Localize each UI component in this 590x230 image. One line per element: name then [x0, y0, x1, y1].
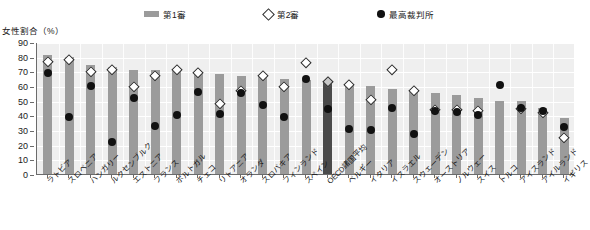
y-axis-tick-label: 70	[2, 67, 28, 77]
bar-22	[495, 101, 504, 174]
y-axis-tick-labels: 9080706050403020100	[0, 43, 34, 175]
circle-marker-9	[216, 110, 224, 118]
circle-marker-8	[194, 88, 202, 96]
circle-marker-19	[431, 107, 439, 115]
circle-marker-24	[539, 107, 547, 115]
x-axis-tick-labels: ラトビアスロベニアハンガリールクセンブルクエストニアフランスポルトガルチェコリト…	[0, 178, 578, 230]
gridline-vertical	[510, 43, 511, 174]
chart-legend: 第1審 第2審 最高裁判所	[0, 6, 578, 22]
bar-swatch-icon	[144, 11, 159, 17]
gridline-horizontal	[37, 43, 574, 44]
circle-marker-10	[237, 89, 245, 97]
y-axis-tick-mark	[30, 146, 34, 147]
diamond-marker-17	[387, 65, 398, 76]
gridline-vertical	[59, 43, 60, 174]
y-axis-tick-mark	[30, 43, 34, 44]
circle-marker-16	[367, 126, 375, 134]
circle-marker-icon	[377, 10, 385, 18]
legend-label-second-instance: 第2審	[277, 8, 300, 20]
legend-item-supreme-court: 最高裁判所	[377, 8, 434, 20]
legend-label-first-instance: 第1審	[163, 8, 186, 20]
diamond-marker-13	[301, 57, 312, 68]
gridline-vertical	[338, 43, 339, 174]
circle-marker-18	[410, 130, 418, 138]
circle-marker-7	[173, 111, 181, 119]
circle-marker-12	[280, 113, 288, 121]
y-axis-tick-mark	[30, 160, 34, 161]
y-axis-tick-label: 90	[2, 38, 28, 48]
gridline-vertical	[403, 43, 404, 174]
circle-marker-22	[496, 81, 504, 89]
gridline-vertical	[274, 43, 275, 174]
circle-marker-1	[44, 69, 52, 77]
circle-marker-11	[259, 101, 267, 109]
circle-marker-5	[130, 94, 138, 102]
y-axis-tick-mark	[30, 116, 34, 117]
circle-marker-21	[474, 111, 482, 119]
gridline-vertical	[123, 43, 124, 174]
gridline-vertical	[80, 43, 81, 174]
y-axis-tick-mark	[30, 58, 34, 59]
gridline-vertical	[166, 43, 167, 174]
gridline-vertical	[424, 43, 425, 174]
gridline-vertical	[231, 43, 232, 174]
bar-9	[215, 74, 224, 174]
legend-item-first-instance: 第1審	[144, 8, 186, 20]
gridline-vertical	[295, 43, 296, 174]
gridline-vertical	[209, 43, 210, 174]
diamond-marker-icon	[262, 8, 275, 21]
circle-marker-6	[151, 122, 159, 130]
y-axis-tick-mark	[30, 131, 34, 132]
circle-marker-17	[388, 104, 396, 112]
circle-marker-15	[345, 125, 353, 133]
y-axis-tick-label: 50	[2, 97, 28, 107]
y-axis-tick-mark	[30, 175, 34, 176]
gridline-horizontal	[37, 72, 574, 73]
circle-marker-4	[108, 138, 116, 146]
y-axis-tick-label: 20	[2, 141, 28, 151]
circle-marker-25	[560, 123, 568, 131]
legend-item-second-instance: 第2審	[264, 8, 300, 20]
circle-marker-13	[302, 75, 310, 83]
gridline-vertical	[188, 43, 189, 174]
legend-label-supreme-court: 最高裁判所	[389, 8, 434, 20]
y-axis-tick-label: 60	[2, 82, 28, 92]
gridline-vertical	[532, 43, 533, 174]
gridline-vertical	[102, 43, 103, 174]
circle-marker-23	[517, 104, 525, 112]
y-axis-title: 女性割合（%）	[2, 24, 64, 36]
y-axis-tick-mark	[30, 87, 34, 88]
y-axis-tick-label: 30	[2, 126, 28, 136]
circle-marker-3	[87, 82, 95, 90]
gridline-vertical	[381, 43, 382, 174]
circle-marker-20	[453, 108, 461, 116]
y-axis-tick-label: 40	[2, 111, 28, 121]
gridline-vertical	[489, 43, 490, 174]
y-axis-tick-label: 80	[2, 53, 28, 63]
y-axis-tick-label: 10	[2, 155, 28, 165]
circle-marker-2	[65, 113, 73, 121]
y-axis-tick-mark	[30, 102, 34, 103]
y-axis-tick-mark	[30, 72, 34, 73]
circle-marker-14	[324, 105, 332, 113]
gridline-vertical	[252, 43, 253, 174]
